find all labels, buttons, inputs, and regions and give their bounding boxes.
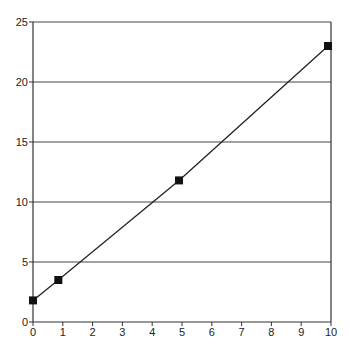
x-tick-label: 1	[60, 326, 66, 338]
square-marker-icon	[29, 296, 37, 304]
x-tick-label: 5	[179, 326, 185, 338]
x-tick-label: 10	[325, 326, 337, 338]
y-tick-label: 5	[22, 256, 28, 268]
x-tick-label: 8	[268, 326, 274, 338]
y-tick-label: 10	[16, 196, 28, 208]
y-tick-label: 25	[16, 16, 28, 28]
data-series	[29, 42, 332, 304]
square-marker-icon	[324, 42, 332, 50]
x-tick-label: 2	[90, 326, 96, 338]
y-tick-label: 20	[16, 76, 28, 88]
horizontal-gridlines	[33, 22, 331, 262]
x-tick-label: 0	[30, 326, 36, 338]
x-tick-label: 3	[119, 326, 125, 338]
y-tick-label: 0	[22, 316, 28, 328]
x-tick-label: 6	[209, 326, 215, 338]
y-tick-label: 15	[16, 136, 28, 148]
axes	[33, 22, 331, 322]
square-marker-icon	[175, 176, 183, 184]
x-tick-label: 9	[298, 326, 304, 338]
line-chart: 0510152025 012345678910	[0, 0, 349, 349]
y-axis-ticks: 0510152025	[16, 16, 33, 328]
x-axis-ticks: 012345678910	[30, 322, 337, 338]
x-tick-label: 7	[239, 326, 245, 338]
x-tick-label: 4	[149, 326, 155, 338]
square-marker-icon	[54, 276, 62, 284]
